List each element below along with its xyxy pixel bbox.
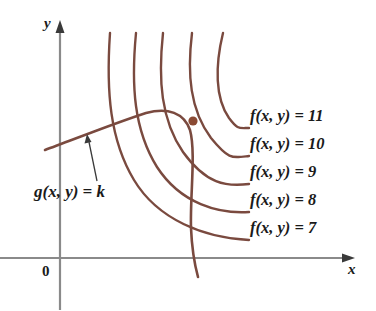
origin-label: 0 — [42, 264, 50, 279]
constraint-curve-label: g(x, y) = k — [34, 183, 105, 200]
x-axis-label: x — [348, 262, 356, 277]
y-axis-label: y — [44, 16, 51, 31]
g-callout-arrow — [85, 134, 98, 181]
level-curve-label-f11: f(x, y) = 11 — [250, 108, 324, 125]
y-axis-arrowhead — [56, 20, 65, 33]
g-callout-arrow-shaft — [89, 142, 97, 181]
level-curve-label-f10: f(x, y) = 10 — [250, 136, 324, 153]
level-curve-f11 — [218, 33, 249, 128]
level-curve-label-f9: f(x, y) = 9 — [250, 164, 316, 181]
tangency-point-dot — [188, 116, 197, 125]
level-curve-f7 — [109, 33, 249, 240]
level-curve-f9 — [161, 33, 249, 185]
level-curve-label-f7: f(x, y) = 7 — [250, 220, 316, 237]
level-curve-label-f8: f(x, y) = 8 — [250, 192, 316, 209]
level-curves-group — [109, 33, 249, 240]
lagrange-multiplier-figure — [0, 0, 376, 311]
